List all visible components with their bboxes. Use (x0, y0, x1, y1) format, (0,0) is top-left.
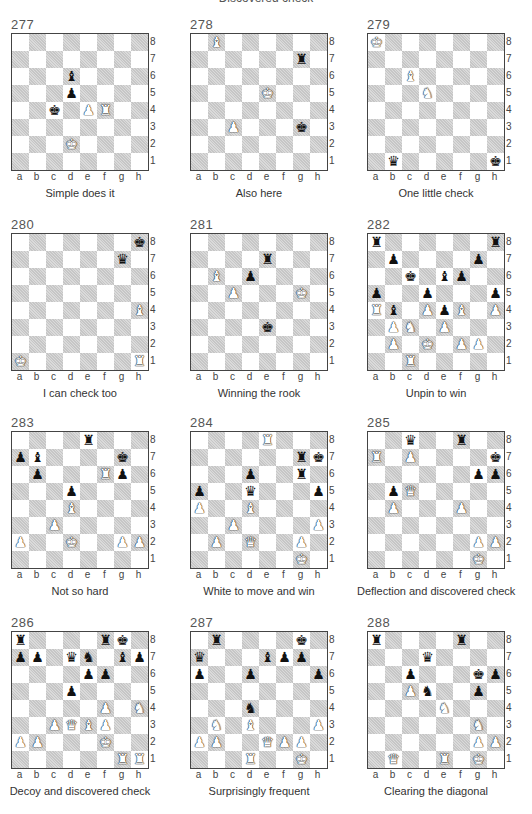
square-h6 (487, 268, 504, 285)
square-f4 (276, 500, 293, 517)
square-b2 (385, 734, 402, 751)
rank-label: 8 (329, 431, 339, 448)
square-c8 (46, 234, 63, 251)
square-e1: ♜ (436, 751, 453, 768)
square-g1 (114, 551, 131, 568)
square-d1 (63, 153, 80, 170)
square-d7 (419, 251, 436, 268)
file-label: g (292, 371, 309, 382)
square-h3 (131, 517, 148, 534)
square-d8 (419, 632, 436, 649)
white-pawn-icon: ♟ (472, 534, 485, 551)
file-label: d (418, 569, 435, 580)
square-c6 (46, 68, 63, 85)
square-g1 (470, 353, 487, 370)
square-c1 (225, 153, 242, 170)
square-c8 (46, 632, 63, 649)
square-c5 (225, 483, 242, 500)
file-label: f (275, 769, 292, 780)
square-e6 (436, 666, 453, 683)
file-label: e (79, 371, 96, 382)
square-h8 (487, 432, 504, 449)
square-h8: ♚ (131, 234, 148, 251)
square-c4 (402, 700, 419, 717)
square-e5 (436, 85, 453, 102)
square-c2 (402, 534, 419, 551)
square-a3 (12, 319, 29, 336)
square-g3 (114, 717, 131, 734)
white-pawn-icon: ♟ (489, 534, 502, 551)
square-d3: ♛ (63, 717, 80, 734)
white-pawn-icon: ♟ (227, 285, 240, 302)
square-c6 (225, 268, 242, 285)
square-h7 (131, 51, 148, 68)
square-e6 (80, 268, 97, 285)
rank-label: 2 (506, 533, 516, 550)
black-king-icon: ♚ (116, 449, 129, 466)
rank-label: 7 (506, 50, 516, 67)
square-c6 (225, 68, 242, 85)
file-label: c (224, 171, 241, 182)
square-c1 (402, 551, 419, 568)
rank-label: 5 (150, 682, 160, 699)
square-e5 (436, 285, 453, 302)
square-d5 (63, 285, 80, 302)
square-h2: ♟ (487, 734, 504, 751)
square-f1 (276, 551, 293, 568)
square-a4 (12, 700, 29, 717)
square-b8 (208, 234, 225, 251)
square-g4 (114, 102, 131, 119)
square-e4 (259, 500, 276, 517)
square-d7 (63, 51, 80, 68)
square-h6: ♟ (310, 666, 327, 683)
square-g3 (114, 517, 131, 534)
rank-label: 5 (150, 284, 160, 301)
black-rook-icon: ♜ (99, 632, 112, 649)
square-e4 (259, 302, 276, 319)
square-f3: ♟ (97, 717, 114, 734)
square-a1 (191, 751, 208, 768)
black-queen-icon: ♛ (421, 649, 434, 666)
file-label: e (435, 371, 452, 382)
square-h8 (131, 632, 148, 649)
black-pawn-icon: ♟ (455, 268, 468, 285)
file-label: g (113, 569, 130, 580)
white-king-icon: ♚ (261, 85, 274, 102)
square-f4 (453, 700, 470, 717)
square-g7: ♛ (114, 251, 131, 268)
square-h1 (131, 153, 148, 170)
square-d5: ♞ (419, 683, 436, 700)
square-b1 (29, 153, 46, 170)
square-b6 (208, 466, 225, 483)
square-c4 (402, 500, 419, 517)
square-g5: ♚ (293, 285, 310, 302)
square-c2 (225, 734, 242, 751)
square-f3 (276, 119, 293, 136)
square-c4 (402, 302, 419, 319)
rank-label: 8 (329, 233, 339, 250)
square-f1 (97, 751, 114, 768)
square-c2 (402, 734, 419, 751)
rank-label: 1 (506, 152, 516, 169)
rank-label: 7 (329, 648, 339, 665)
square-b1 (208, 153, 225, 170)
square-g7 (470, 649, 487, 666)
square-b8 (385, 234, 402, 251)
square-a6 (368, 268, 385, 285)
square-a6 (12, 268, 29, 285)
white-knight-icon: ♞ (438, 700, 451, 717)
rank-label: 6 (506, 67, 516, 84)
chess-diagram: 288♜♜♛♟♚♟♟♞♟♞♞♟♟♛♜♚87654321abcdefghClear… (367, 615, 532, 814)
square-d2: ♚ (63, 136, 80, 153)
rank-label: 6 (150, 67, 160, 84)
square-f8 (453, 34, 470, 51)
file-label: e (258, 171, 275, 182)
white-rook-icon: ♜ (133, 353, 146, 370)
rank-label: 7 (150, 250, 160, 267)
rank-label: 2 (150, 335, 160, 352)
square-e5 (259, 483, 276, 500)
file-label: d (62, 769, 79, 780)
square-e6: ♝ (436, 268, 453, 285)
square-b7 (208, 449, 225, 466)
square-e7 (259, 51, 276, 68)
